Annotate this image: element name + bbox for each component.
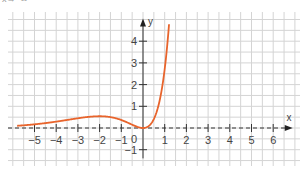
x-tick-label: 2 (183, 134, 189, 146)
x-axis-label: x (286, 112, 291, 123)
origin-label: 0 (131, 133, 137, 145)
x-tick-label: 1 (162, 134, 168, 146)
x-tick-label: −2 (93, 134, 106, 146)
y-tick-label: −1 (124, 144, 137, 156)
function-graph: xy −5−4−3−2−11234561234−10 (0, 0, 302, 176)
x-axis-arrow (285, 125, 293, 131)
y-tick-label: 3 (131, 57, 137, 69)
x-tick-label: −4 (50, 134, 63, 146)
x-tick-label: 4 (227, 134, 233, 146)
x-tick-label: −3 (72, 134, 85, 146)
series-line-f (17, 24, 169, 128)
y-tick-label: 4 (131, 35, 137, 47)
y-tick-label: 1 (131, 100, 137, 112)
x-tick-label: 5 (248, 134, 254, 146)
x-tick-label: 3 (205, 134, 211, 146)
x-tick-label: 6 (270, 134, 276, 146)
y-tick-label: 2 (131, 79, 137, 91)
y-axis-label: y (148, 16, 153, 27)
x-tick-label: −5 (28, 134, 41, 146)
curve (17, 24, 169, 128)
